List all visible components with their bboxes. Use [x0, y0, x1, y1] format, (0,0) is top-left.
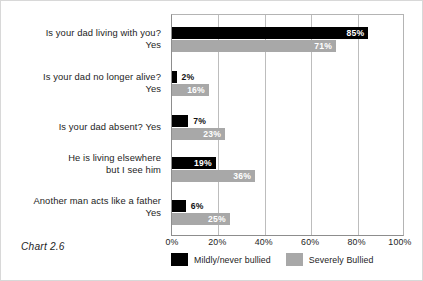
category-label: Another man acts like a father Yes — [1, 195, 161, 220]
x-tick-label: 80% — [347, 237, 365, 247]
category-label-line: Another man acts like a father — [1, 195, 161, 207]
legend-swatch-light — [286, 253, 303, 266]
bar-light: 36% — [172, 170, 255, 182]
plot-area: 85% 71% 2% 16% 7% 23% 19% 36% 6% — [171, 14, 404, 236]
category-label-line: but I see him — [1, 164, 161, 176]
category-label-line: Is your dad no longer alive? — [1, 71, 161, 83]
category-label-line: Is your dad absent? Yes — [1, 121, 161, 133]
bar-value-label: 2% — [182, 73, 195, 82]
gridline — [358, 15, 359, 235]
category-axis: Is your dad living with you? Yes Is your… — [1, 14, 168, 236]
bar-value-label: 23% — [203, 130, 221, 139]
bar-dark: 7% — [172, 115, 188, 127]
category-label: Is your dad living with you? Yes — [1, 27, 161, 52]
category-label: Is your dad no longer alive? Yes — [1, 71, 161, 96]
legend-label: Severely Bullied — [309, 255, 374, 265]
chart-legend: Mildly/never bullied Severely Bullied — [171, 253, 384, 266]
x-tick-label: 100% — [388, 237, 411, 247]
bar-value-label: 7% — [193, 117, 206, 126]
category-label-line: Is your dad living with you? — [1, 27, 161, 39]
bar-value-label: 85% — [347, 29, 365, 38]
legend-swatch-dark — [171, 253, 188, 266]
x-tick-label: 0% — [165, 237, 178, 247]
category-label-line: Yes — [1, 207, 161, 219]
bar-dark: 2% — [172, 71, 177, 83]
bar-dark: 19% — [172, 157, 216, 169]
bar-light: 71% — [172, 40, 336, 52]
category-label: He is living elsewhere but I see him — [1, 152, 161, 177]
legend-label: Mildly/never bullied — [194, 255, 271, 265]
x-tick-label: 40% — [255, 237, 273, 247]
category-label-line: Yes — [1, 83, 161, 95]
bar-value-label: 71% — [314, 42, 332, 51]
x-tick-label: 60% — [301, 237, 319, 247]
bar-value-label: 19% — [194, 159, 212, 168]
chart-figure: Is your dad living with you? Yes Is your… — [0, 0, 423, 281]
x-tick-label: 20% — [208, 237, 226, 247]
bar-value-label: 25% — [208, 215, 226, 224]
category-label-line: He is living elsewhere — [1, 152, 161, 164]
bar-light: 23% — [172, 128, 225, 140]
chart-caption: Chart 2.6 — [21, 241, 65, 252]
bar-value-label: 16% — [187, 86, 205, 95]
bar-light: 16% — [172, 84, 209, 96]
bar-light: 25% — [172, 213, 230, 225]
legend-entry-severely-bullied: Severely Bullied — [286, 253, 374, 266]
bar-value-label: 36% — [233, 172, 251, 181]
category-label: Is your dad absent? Yes — [1, 121, 161, 133]
bar-dark: 85% — [172, 27, 368, 39]
x-axis: 0% 20% 40% 60% 80% 100% — [171, 237, 404, 251]
bar-dark: 6% — [172, 200, 186, 212]
legend-entry-mildly-never-bullied: Mildly/never bullied — [171, 253, 271, 266]
category-label-line: Yes — [1, 39, 161, 51]
bar-value-label: 6% — [191, 202, 204, 211]
